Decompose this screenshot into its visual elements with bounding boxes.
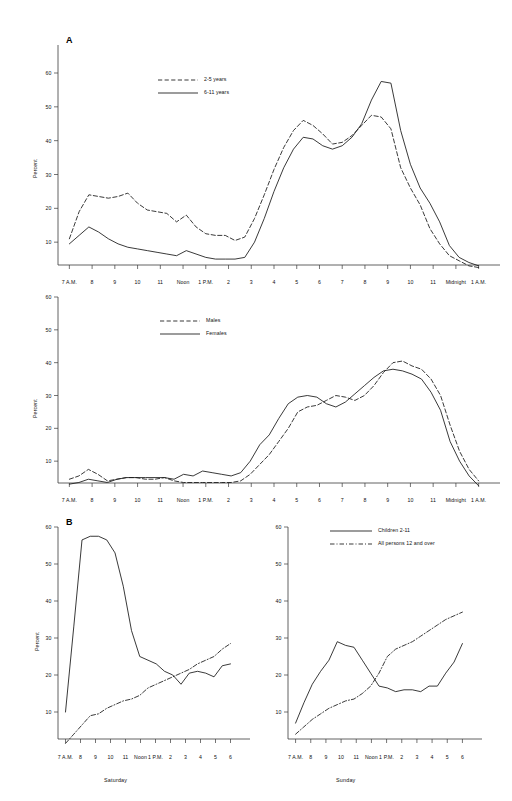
- svg-text:1 A.M.: 1 A.M.: [471, 497, 486, 503]
- svg-text:5: 5: [295, 497, 298, 503]
- x-ticks-a-sex: 7 A.M.891011Noon1 P.M.234567891011Midnig…: [62, 483, 487, 503]
- svg-text:7 A.M.: 7 A.M.: [62, 279, 77, 285]
- svg-text:1 P.M.: 1 P.M.: [198, 279, 213, 285]
- svg-text:Noon: Noon: [177, 279, 190, 285]
- svg-text:50: 50: [276, 561, 282, 567]
- svg-text:2: 2: [169, 754, 172, 760]
- y-ticks-a-sex: 102030405060: [46, 294, 58, 464]
- svg-text:40: 40: [46, 360, 52, 366]
- legend-label-6-11-years: 6-11 years: [204, 89, 229, 95]
- series-path-males: [69, 361, 478, 482]
- svg-text:8: 8: [309, 754, 312, 760]
- svg-text:10: 10: [135, 497, 141, 503]
- y-ticks-b-saturday: 102030405060: [46, 524, 58, 715]
- svg-text:Noon: Noon: [365, 754, 378, 760]
- svg-text:9: 9: [386, 279, 389, 285]
- svg-text:3: 3: [250, 497, 253, 503]
- x-axis-title-sunday: Sunday: [336, 777, 355, 783]
- series-a-sex: [69, 361, 478, 486]
- svg-text:60: 60: [46, 294, 52, 300]
- svg-text:10: 10: [46, 458, 52, 464]
- svg-text:30: 30: [46, 172, 52, 178]
- svg-text:10: 10: [407, 497, 413, 503]
- svg-text:9: 9: [113, 279, 116, 285]
- svg-text:7: 7: [341, 279, 344, 285]
- svg-text:10: 10: [338, 754, 344, 760]
- svg-text:7 A.M.: 7 A.M.: [62, 497, 77, 503]
- svg-text:9: 9: [94, 754, 97, 760]
- chart-svg-a-age: 102030405060 7 A.M.891011Noon1 P.M.23456…: [0, 28, 512, 293]
- svg-text:3: 3: [415, 754, 418, 760]
- svg-text:60: 60: [46, 524, 52, 530]
- legend-label-children-2-11: Children 2-11: [378, 527, 410, 533]
- legend-a-age: 2-5 years6-11 years: [158, 76, 229, 95]
- chart-panel-a-sex: 102030405060 7 A.M.891011Noon1 P.M.23456…: [0, 293, 512, 511]
- svg-text:7: 7: [341, 497, 344, 503]
- legend-a-sex: MalesFemales: [160, 317, 227, 336]
- chart-svg-a-sex: 102030405060 7 A.M.891011Noon1 P.M.23456…: [0, 293, 512, 511]
- y-axis-title-b-saturday: Percent: [34, 632, 40, 651]
- series-b-saturday: [66, 536, 231, 743]
- svg-text:11: 11: [158, 279, 164, 285]
- svg-text:8: 8: [363, 279, 366, 285]
- series-path-children-2-11: [296, 642, 463, 723]
- svg-text:1 A.M.: 1 A.M.: [471, 279, 486, 285]
- svg-text:10: 10: [108, 754, 114, 760]
- svg-text:8: 8: [91, 497, 94, 503]
- svg-text:40: 40: [276, 598, 282, 604]
- y-axis-title-a-age: Percent: [32, 159, 38, 178]
- svg-text:8: 8: [363, 497, 366, 503]
- series-path-all-persons-12-and-over: [296, 612, 463, 734]
- svg-text:7 A.M.: 7 A.M.: [58, 754, 73, 760]
- svg-text:10: 10: [135, 279, 141, 285]
- series-path-females: [69, 369, 478, 486]
- svg-text:3: 3: [250, 279, 253, 285]
- svg-text:60: 60: [46, 70, 52, 76]
- svg-text:8: 8: [79, 754, 82, 760]
- legend-label-females: Females: [206, 330, 227, 336]
- svg-text:6: 6: [318, 497, 321, 503]
- series-path-6-11-years: [69, 81, 478, 265]
- svg-text:20: 20: [276, 672, 282, 678]
- svg-text:20: 20: [46, 205, 52, 211]
- svg-text:40: 40: [46, 138, 52, 144]
- axes-a-sex: [58, 297, 500, 483]
- x-axis-title-saturday: Saturday: [104, 777, 127, 783]
- y-axis-title-a-sex: Percent: [32, 399, 38, 418]
- svg-text:6: 6: [229, 754, 232, 760]
- series-path-children-2-11: [66, 536, 231, 712]
- svg-text:9: 9: [113, 497, 116, 503]
- y-ticks-a-age: 102030405060: [46, 70, 58, 245]
- series-path-all-persons-12-and-over: [66, 644, 231, 744]
- svg-text:50: 50: [46, 561, 52, 567]
- svg-text:60: 60: [276, 524, 282, 530]
- svg-text:10: 10: [46, 239, 52, 245]
- legend-b-sunday: Children 2-11All persons 12 and over: [330, 527, 435, 546]
- panel-letter-b: B: [66, 517, 73, 527]
- axes-b-saturday: [58, 527, 250, 739]
- svg-text:4: 4: [273, 497, 276, 503]
- svg-text:20: 20: [46, 672, 52, 678]
- series-a-age: [69, 81, 478, 267]
- svg-text:4: 4: [431, 754, 434, 760]
- svg-text:9: 9: [324, 754, 327, 760]
- svg-text:9: 9: [386, 497, 389, 503]
- svg-text:5: 5: [214, 754, 217, 760]
- x-ticks-b-saturday: 7 A.M.891011Noon1 P.M.23456: [58, 739, 232, 760]
- y-ticks-b-sunday: 102030405060: [276, 524, 288, 715]
- svg-text:30: 30: [276, 635, 282, 641]
- svg-text:4: 4: [199, 754, 202, 760]
- x-ticks-a-age: 7 A.M.891011Noon1 P.M.234567891011Midnig…: [62, 265, 487, 285]
- legend-label-males: Males: [206, 317, 221, 323]
- svg-text:30: 30: [46, 393, 52, 399]
- svg-text:5: 5: [446, 754, 449, 760]
- svg-text:2: 2: [400, 754, 403, 760]
- svg-text:11: 11: [353, 754, 359, 760]
- svg-text:7 A.M.: 7 A.M.: [288, 754, 303, 760]
- svg-text:4: 4: [273, 279, 276, 285]
- svg-text:5: 5: [295, 279, 298, 285]
- chart-panel-a-age: A 102030405060 7 A.M.891011Noon1 P.M.234…: [0, 28, 512, 293]
- svg-text:10: 10: [407, 279, 413, 285]
- series-b-sunday: [296, 612, 463, 734]
- svg-text:40: 40: [46, 598, 52, 604]
